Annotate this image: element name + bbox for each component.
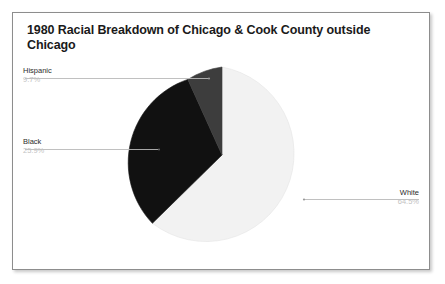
pie-label-hispanic[interactable]: Hispanic 9.7% [23,66,52,84]
pie-label-black-name: Black [23,137,44,146]
pie-label-hispanic-name: Hispanic [23,66,52,75]
leader-endpoint-white [303,198,305,200]
leader-endpoint-hispanic [208,77,210,79]
leader-endpoint-black [158,148,160,150]
pie-label-white[interactable]: White 64.5% [359,188,419,206]
pie-label-white-percent: 64.5% [359,197,419,206]
pie-label-white-name: White [359,188,419,197]
pie-label-black[interactable]: Black 25.9% [23,137,44,155]
chart-frame: 1980 Racial Breakdown of Chicago & Cook … [12,12,430,270]
pie-label-hispanic-percent: 9.7% [23,75,52,84]
pie-label-black-percent: 25.9% [23,146,44,155]
pie-chart-plot-area [13,13,431,271]
pie-chart-svg [13,13,431,271]
